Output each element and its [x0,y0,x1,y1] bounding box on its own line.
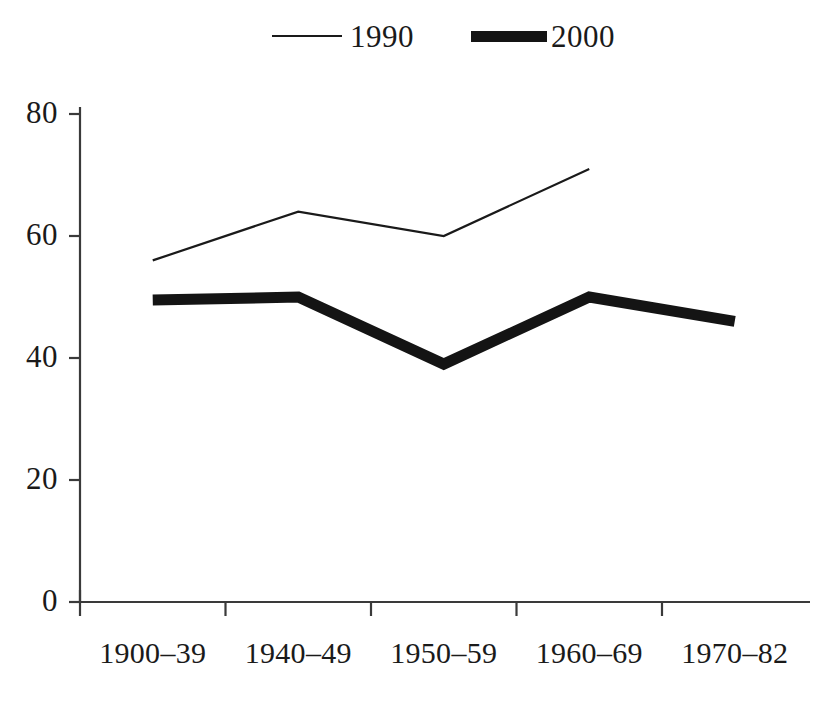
plot-area: 020406080 1900–391940–491950–591960–6919… [0,0,825,702]
x-tick-label: 1970–82 [655,638,815,668]
y-tick-label: 40 [0,341,58,372]
series-line-2000 [153,297,735,364]
x-tick-label: 1950–59 [364,638,524,668]
line-chart: 1990 2000 020406080 1900–391940–491950–5… [0,0,825,702]
x-tick-label: 1940–49 [218,638,378,668]
data-series [153,169,735,364]
x-tick-label: 1900–39 [73,638,233,668]
y-tick-label: 0 [0,585,58,616]
plot-canvas [0,0,825,702]
y-tick-label: 80 [0,97,58,128]
y-tick-label: 60 [0,219,58,250]
series-line-1990 [153,169,590,261]
y-tick-label: 20 [0,463,58,494]
x-tick-label: 1960–69 [509,638,669,668]
